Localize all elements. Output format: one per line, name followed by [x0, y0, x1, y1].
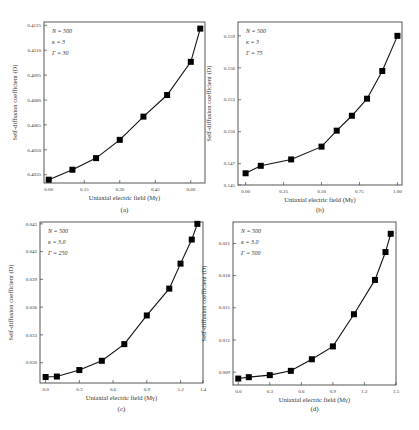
data-point: [309, 356, 315, 362]
x-tick-label: 0.0: [42, 387, 49, 392]
y-tick-label: 0.036: [26, 305, 38, 310]
parameter-annotation: κ = 3: [52, 39, 65, 45]
x-axis-title: Uniaxial electric field (Mγ): [279, 396, 350, 404]
x-tick-label: 1.5: [393, 389, 400, 394]
data-point: [43, 374, 49, 380]
data-point: [267, 372, 273, 378]
parameter-annotation: N = 500: [240, 228, 261, 234]
x-tick-label: 1.2: [177, 387, 184, 392]
data-point: [235, 376, 241, 382]
x-tick-label: 0.9: [330, 389, 337, 394]
panel-b: 0.000.250.500.751.000.1450.1470.1500.153…: [205, 22, 402, 214]
data-point: [243, 170, 249, 176]
x-tick-label: 0.9: [144, 387, 151, 392]
data-point: [46, 177, 52, 183]
data-point: [330, 343, 336, 349]
data-point: [93, 155, 99, 161]
data-point: [382, 249, 388, 255]
series-line: [46, 224, 198, 377]
y-tick-label: 0.147: [224, 161, 236, 166]
panel-d: 0.00.30.60.91.21.50.0090.0120.0150.0180.…: [200, 222, 400, 413]
y-tick-label: 0.159: [224, 34, 236, 39]
x-tick-label: 0.00: [44, 187, 53, 192]
data-point: [76, 367, 82, 373]
y-tick-label: 0.4095: [27, 73, 41, 78]
y-tick-label: 0.042: [26, 249, 38, 254]
parameter-annotation: N = 500: [245, 28, 266, 34]
x-tick-label: 0.6: [110, 387, 117, 392]
data-point: [364, 96, 370, 102]
y-axis-title: Self-diffusion coefficient (D): [205, 66, 213, 142]
y-tick-label: 0.4080: [27, 98, 41, 103]
x-tick-label: 1.4: [200, 387, 207, 392]
x-tick-label: 0.50: [317, 189, 326, 194]
y-tick-label: 0.156: [224, 66, 236, 71]
panel-caption: (b): [316, 206, 325, 214]
y-tick-label: 0.018: [219, 273, 231, 278]
data-point: [121, 341, 127, 347]
panel-caption: (d): [310, 405, 319, 413]
panel-c: 0.00.30.60.91.21.40.0300.0330.0360.0390.…: [7, 221, 207, 413]
y-tick-label: 0.4050: [27, 148, 41, 153]
x-tick-label: 0.0: [235, 389, 242, 394]
x-tick-label: 0.3: [267, 389, 274, 394]
data-point: [372, 277, 378, 283]
x-tick-label: 0.45: [151, 187, 160, 192]
x-tick-label: 1.2: [361, 389, 368, 394]
parameter-annotation: Γ = 30: [51, 50, 68, 56]
data-point: [288, 156, 294, 162]
data-point: [197, 26, 203, 32]
data-point: [288, 368, 294, 374]
x-tick-label: 0.60: [186, 187, 195, 192]
y-tick-label: 0.4125: [27, 23, 41, 28]
parameter-annotation: Γ = 500: [240, 250, 260, 256]
x-tick-label: 0.3: [76, 387, 83, 392]
data-point: [258, 163, 264, 169]
x-axis-title: Uniaxial electric field (Mγ): [284, 196, 355, 204]
panel-caption: (c): [118, 405, 126, 413]
data-point: [188, 59, 194, 65]
plot-frame: [238, 22, 402, 185]
data-point: [388, 231, 394, 237]
data-point: [394, 33, 400, 39]
y-tick-label: 0.4110: [27, 48, 41, 53]
plot-frame: [44, 22, 205, 183]
parameter-annotation: N = 500: [51, 28, 72, 34]
data-point: [99, 358, 105, 364]
y-tick-label: 0.012: [219, 338, 231, 343]
data-point: [178, 261, 184, 267]
data-point: [246, 374, 252, 380]
data-point: [117, 137, 123, 143]
parameter-annotation: Γ = 75: [245, 50, 262, 56]
data-point: [54, 374, 60, 380]
data-point: [189, 237, 195, 243]
data-point: [164, 92, 170, 98]
y-tick-label: 0.4065: [27, 123, 41, 128]
x-tick-label: 0.75: [355, 189, 364, 194]
parameter-annotation: κ = 3: [246, 39, 259, 45]
data-point: [334, 128, 340, 134]
data-point: [69, 167, 75, 173]
y-tick-label: 0.015: [219, 305, 231, 310]
y-tick-label: 0.021: [219, 241, 231, 246]
parameter-annotation: κ = 3.0: [48, 239, 65, 245]
x-tick-label: 1.00: [393, 189, 402, 194]
data-point: [166, 286, 172, 292]
data-point: [140, 114, 146, 120]
y-tick-label: 0.145: [224, 183, 236, 188]
x-tick-label: 0.00: [241, 189, 250, 194]
y-tick-label: 0.4035: [27, 172, 41, 177]
data-point: [351, 311, 357, 317]
y-axis-title: Self-diffusion coefficient (D): [7, 265, 15, 341]
y-tick-label: 0.150: [224, 129, 236, 134]
data-point: [144, 312, 150, 318]
parameter-annotation: Γ = 250: [47, 250, 67, 256]
x-axis-title: Uniaxial electric field (Mγ): [89, 194, 160, 202]
x-axis-title: Uniaxial electric field (Mγ): [86, 394, 157, 402]
panel-caption: (a): [121, 206, 129, 214]
figure: 0.000.150.300.450.600.40350.40500.40650.…: [0, 0, 419, 430]
y-axis-title: Self-diffusion coefficient (D): [11, 65, 19, 141]
parameter-annotation: N = 500: [47, 228, 68, 234]
data-point: [349, 113, 355, 119]
panel-a: 0.000.150.300.450.600.40350.40500.40650.…: [11, 22, 205, 214]
